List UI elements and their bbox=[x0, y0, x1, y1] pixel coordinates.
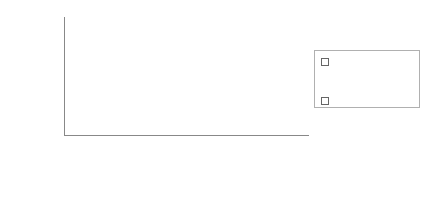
legend-item-roma bbox=[321, 94, 333, 105]
x-axis bbox=[64, 135, 309, 136]
legend-swatch-other bbox=[321, 58, 329, 66]
legend-swatch-roma bbox=[321, 97, 329, 105]
y-axis bbox=[64, 17, 65, 135]
legend bbox=[314, 50, 420, 108]
legend-item-other bbox=[321, 55, 333, 66]
stacked-bar-chart bbox=[0, 0, 421, 215]
